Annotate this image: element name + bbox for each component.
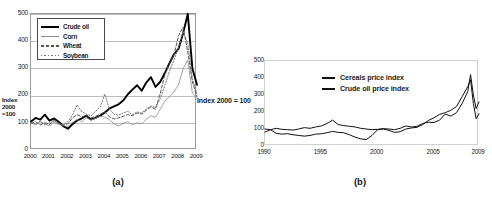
legend-item: Crude oil: [41, 22, 101, 32]
x-tick-label: 2007: [149, 152, 169, 159]
y-tick-label: 500: [2, 10, 28, 17]
legend-swatch-cereals-price-index: [322, 75, 335, 81]
x-axis-labels-a: 2000200120022003200420052006200720082009: [30, 152, 196, 166]
y-axis-title-a: Index2000=100: [2, 96, 29, 118]
y-tick-label: 300: [240, 91, 264, 98]
y-tick-label: 400: [240, 74, 264, 81]
x-tick-label: 2000: [366, 148, 388, 155]
x-tick-label: 2001: [38, 152, 58, 159]
legend-label: Crude oil price index: [340, 85, 409, 93]
x-tick-label: 2005: [112, 152, 132, 159]
x-tick-label: 2009: [186, 152, 206, 159]
legend-label: Soybean: [63, 52, 88, 59]
y-tick-label: 500: [240, 57, 264, 64]
legend-item: Soybean: [41, 51, 101, 61]
legend-swatch-crude-oil: [41, 24, 59, 30]
legend-label: Wheat: [63, 42, 81, 49]
x-tick-label: 1995: [309, 148, 331, 155]
legend-item: Crude oil price index: [322, 83, 442, 94]
x-tick-label: 1990: [253, 148, 275, 155]
y-axis-title-line: Index: [2, 96, 29, 103]
figure-container: 0100200300400500 Index2000=100 Crude oil…: [0, 0, 492, 201]
caption-b: (b): [330, 176, 390, 187]
legend-item: Wheat: [41, 41, 101, 51]
x-tick-label: 2008: [168, 152, 188, 159]
y-tick-label: 100: [240, 125, 264, 132]
legend-item: Corn: [41, 32, 101, 42]
legend-label: Cereals price index: [340, 74, 404, 82]
caption-a: (a): [88, 176, 148, 187]
y-axis-title-line: =100: [2, 110, 29, 117]
y-tick-label: 100: [2, 119, 28, 126]
legend-swatch-crude-oil-price-index: [322, 86, 335, 92]
legend-swatch-soybean: [41, 52, 59, 58]
y-tick-label: 200: [240, 108, 264, 115]
y-tick-label: 300: [2, 64, 28, 71]
legend-swatch-wheat: [41, 43, 59, 49]
y-tick-label: 400: [2, 37, 28, 44]
legend-swatch-corn: [41, 33, 59, 39]
x-tick-label: 2002: [57, 152, 77, 159]
x-tick-label: 2009: [467, 148, 489, 155]
x-tick-label: 2005: [422, 148, 444, 155]
x-tick-label: 2004: [94, 152, 114, 159]
legend-a: Crude oilCornWheatSoybean: [37, 18, 105, 60]
x-axis-labels-b: 19901995200020052009: [264, 148, 478, 162]
legend-label: Crude oil: [63, 23, 89, 30]
legend-label: Corn: [63, 33, 77, 40]
legend-item: Cereals price index: [322, 72, 442, 83]
legend-b: Cereals price indexCrude oil price index: [322, 72, 442, 94]
x-tick-label: 2006: [131, 152, 151, 159]
y-axis-labels-b: 0100200300400500: [240, 0, 264, 201]
x-tick-label: 2003: [75, 152, 95, 159]
x-tick-label: 2000: [20, 152, 40, 159]
y-axis-title-line: 2000: [2, 103, 29, 110]
